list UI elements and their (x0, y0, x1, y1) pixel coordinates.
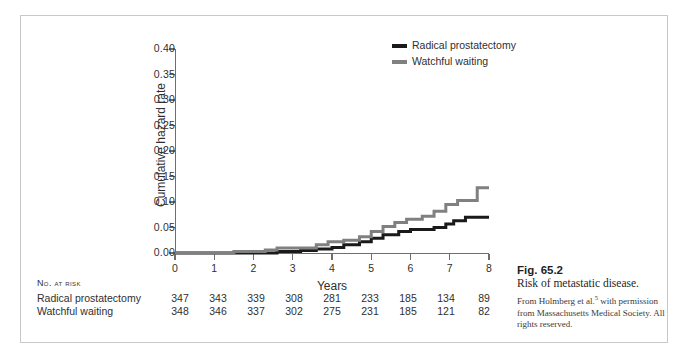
legend-label-radical-prostatectomy: Radical prostatectomy (412, 39, 516, 52)
risk-value: 302 (275, 305, 313, 317)
risk-row-label: Watchful waiting (37, 305, 161, 317)
legend-label-watchful-waiting: Watchful waiting (412, 55, 488, 68)
risk-row: Radical prostatectomy3473433393082812331… (37, 292, 507, 305)
risk-value: 347 (161, 292, 199, 304)
caption-source-pre: From Holmberg et al. (517, 296, 595, 306)
risk-row-values: 34734333930828123318513489 (161, 292, 507, 304)
figure-caption-title: Risk of metastatic disease. (517, 277, 667, 290)
chart-plot-area: 0.000.050.100.150.200.250.300.350.40 012… (147, 34, 507, 259)
x-tick-label-8: 8 (481, 262, 497, 274)
risk-value: 339 (237, 292, 275, 304)
risk-value: 82 (465, 305, 503, 317)
risk-value: 348 (161, 305, 199, 317)
series-line-radical-prostatectomy (175, 217, 489, 253)
risk-row-values: 34834633730227523118512182 (161, 305, 507, 317)
legend-swatch-radical-prostatectomy (392, 44, 407, 48)
risk-value: 275 (313, 305, 351, 317)
series-line-watchful-waiting (175, 188, 489, 253)
number-at-risk-title: No. at Risk (37, 278, 507, 288)
x-tick-label-4: 4 (324, 262, 340, 274)
risk-value: 185 (389, 292, 427, 304)
legend-item-radical-prostatectomy: Radical prostatectomy (392, 39, 516, 52)
legend-swatch-watchful-waiting (392, 60, 407, 64)
x-tick-label-3: 3 (285, 262, 301, 274)
number-at-risk-table: No. at Risk Radical prostatectomy3473433… (37, 278, 507, 318)
risk-value: 343 (199, 292, 237, 304)
x-tick-label-1: 1 (206, 262, 222, 274)
x-tick-label-0: 0 (167, 262, 183, 274)
x-tick-label-5: 5 (363, 262, 379, 274)
legend-item-watchful-waiting: Watchful waiting (392, 55, 516, 68)
figure-frame: 0.000.050.100.150.200.250.300.350.40 012… (20, 15, 668, 343)
risk-value: 185 (389, 305, 427, 317)
risk-value: 346 (199, 305, 237, 317)
y-axis-title: Cumulative hazard rate (154, 35, 168, 255)
risk-value: 337 (237, 305, 275, 317)
risk-value: 134 (427, 292, 465, 304)
risk-value: 231 (351, 305, 389, 317)
risk-value: 89 (465, 292, 503, 304)
x-tick-label-6: 6 (403, 262, 419, 274)
risk-value: 308 (275, 292, 313, 304)
risk-value: 233 (351, 292, 389, 304)
risk-row-label: Radical prostatectomy (37, 292, 161, 304)
risk-row: Watchful waiting348346337302275231185121… (37, 305, 507, 318)
figure-caption-source: From Holmberg et al.5 with permission fr… (517, 292, 667, 331)
chart-legend: Radical prostatectomy Watchful waiting (392, 39, 516, 71)
figure-number: Fig. 65.2 (517, 264, 667, 276)
risk-value: 121 (427, 305, 465, 317)
risk-value: 281 (313, 292, 351, 304)
figure-caption: Fig. 65.2 Risk of metastatic disease. Fr… (517, 264, 667, 331)
x-tick-label-2: 2 (246, 262, 262, 274)
number-at-risk-rows: Radical prostatectomy3473433393082812331… (37, 292, 507, 318)
x-tick-label-7: 7 (442, 262, 458, 274)
